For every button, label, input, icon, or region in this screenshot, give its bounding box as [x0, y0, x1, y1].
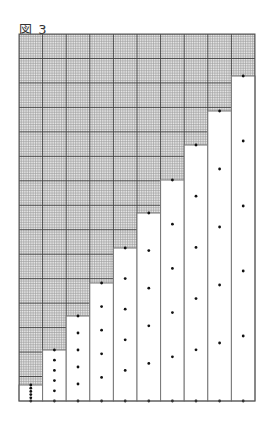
division-dot	[124, 369, 127, 372]
division-dot	[171, 179, 174, 182]
division-dot	[195, 297, 198, 300]
division-dot	[195, 348, 198, 351]
division-dot	[147, 249, 150, 252]
division-dot	[242, 270, 245, 273]
column-9	[208, 110, 232, 403]
division-dot	[218, 110, 221, 113]
division-dot	[195, 144, 198, 147]
division-dot	[218, 168, 221, 171]
division-dot	[77, 349, 80, 352]
division-dot	[242, 75, 245, 78]
division-dot	[242, 140, 245, 143]
column-6	[137, 212, 161, 403]
division-dot	[242, 205, 245, 208]
column-8	[184, 144, 208, 403]
division-dot	[100, 329, 103, 332]
graph-paper-diagram	[0, 0, 267, 424]
division-dot	[147, 362, 150, 365]
division-dot	[53, 359, 56, 362]
division-dot	[53, 379, 56, 382]
division-dot	[53, 369, 56, 372]
division-dot	[195, 246, 198, 249]
division-dot	[100, 305, 103, 308]
division-dot	[29, 390, 32, 393]
division-dot	[195, 195, 198, 198]
division-dot	[77, 332, 80, 335]
division-dot	[77, 383, 80, 386]
division-dot	[29, 387, 32, 390]
division-dot	[100, 282, 103, 285]
division-dot	[218, 226, 221, 229]
column-4	[90, 282, 114, 403]
division-dot	[218, 342, 221, 345]
division-dot	[218, 284, 221, 287]
column-1	[19, 384, 43, 403]
division-dot	[242, 335, 245, 338]
division-dot	[147, 324, 150, 327]
division-dot	[171, 223, 174, 226]
division-dot	[124, 308, 127, 311]
column-10	[231, 75, 255, 403]
column-5	[113, 247, 137, 403]
division-dot	[53, 349, 56, 352]
division-dot	[171, 267, 174, 270]
division-dot	[147, 287, 150, 290]
division-dot	[171, 355, 174, 358]
division-dot	[77, 315, 80, 318]
division-dot	[171, 311, 174, 314]
division-dot	[147, 212, 150, 215]
division-dot	[124, 247, 127, 250]
division-dot	[100, 376, 103, 379]
division-dot	[53, 389, 56, 392]
division-dot	[100, 352, 103, 355]
column-3	[66, 315, 90, 403]
division-dot	[124, 277, 127, 280]
division-dot	[29, 384, 32, 387]
division-dot	[29, 393, 32, 396]
division-dot	[124, 338, 127, 341]
division-dot	[29, 396, 32, 399]
column-2	[43, 349, 67, 403]
column-7	[161, 179, 185, 403]
division-dot	[77, 366, 80, 369]
